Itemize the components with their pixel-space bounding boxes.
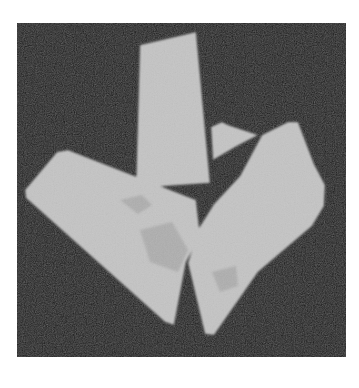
photo-scene bbox=[0, 0, 359, 388]
